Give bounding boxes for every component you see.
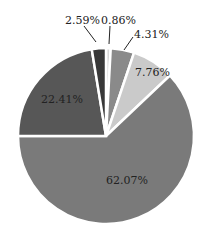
label-22-41: 22.41% [41, 93, 83, 106]
leader-line-2-59 [84, 26, 96, 42]
pie-chart: 2.59% 0.86% 4.31% 7.76% 62.07% 22.41% [0, 0, 210, 243]
label-4-31: 4.31% [134, 28, 169, 41]
leader-lines [84, 26, 133, 50]
label-7-76: 7.76% [135, 66, 170, 79]
label-2-59: 2.59% [65, 14, 100, 27]
label-62-07: 62.07% [106, 174, 148, 187]
label-0-86: 0.86% [101, 14, 136, 27]
leader-line-4-31 [124, 37, 133, 50]
leader-line-0-86 [109, 26, 110, 44]
